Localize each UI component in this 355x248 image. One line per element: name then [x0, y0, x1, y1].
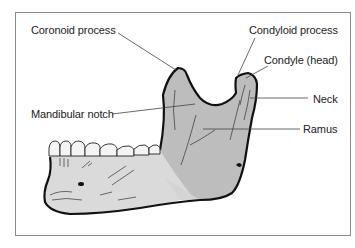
label-ramus: Ramus: [303, 123, 337, 135]
label-neck: Neck: [313, 93, 338, 105]
label-coronoid-process: Coronoid process: [31, 24, 116, 36]
teeth: [49, 141, 160, 156]
mandible-illustration: [0, 0, 355, 248]
label-condyloid-process: Condyloid process: [249, 24, 338, 36]
label-condyle-head: Condyle (head): [264, 54, 338, 66]
label-mandibular-notch: Mandibular notch: [31, 108, 114, 120]
